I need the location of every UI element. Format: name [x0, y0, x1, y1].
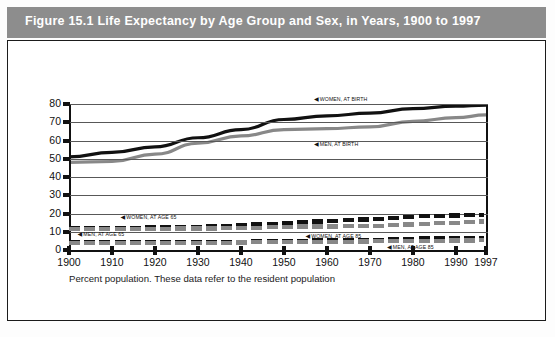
gridline	[69, 122, 488, 123]
y-axis-tick-label: 70	[39, 115, 61, 127]
y-axis-tick-mark	[63, 102, 70, 106]
x-axis-tick-mark	[454, 246, 457, 255]
x-axis-tick-label: 1900	[57, 256, 80, 268]
gridline	[69, 159, 488, 160]
dash-men-at-age-85	[343, 240, 354, 244]
gridline	[69, 232, 488, 233]
dash-men-at-age-85	[206, 241, 217, 245]
dash-men-at-age-85	[358, 239, 369, 243]
gridline	[69, 195, 488, 196]
dash-women-at-age-65	[434, 214, 445, 218]
y-axis-tick-label: 0	[39, 243, 61, 255]
figure-page: Figure 15.1 Life Expectancy by Age Group…	[0, 0, 555, 337]
y-axis-tick-mark	[63, 212, 70, 216]
y-axis-tick-label: 40	[39, 170, 61, 182]
x-axis-tick-label: 1990	[444, 256, 467, 268]
gridline	[69, 104, 488, 105]
dash-men-at-age-85	[419, 239, 430, 243]
dash-men-at-age-65	[160, 227, 171, 231]
dash-men-at-age-85	[160, 241, 171, 245]
callout-arrow-icon: ◀	[314, 96, 319, 102]
dash-women-at-age-65	[388, 216, 399, 220]
annotation-label: MEN, AT AGE 85	[393, 244, 434, 250]
dash-men-at-age-85	[236, 240, 247, 244]
x-axis-tick-mark	[325, 246, 328, 255]
dash-men-at-age-85	[221, 241, 232, 245]
dash-men-at-age-65	[282, 225, 293, 229]
dash-women-at-age-65	[312, 219, 323, 223]
dash-men-at-age-65	[373, 224, 384, 228]
dash-men-at-age-65	[464, 220, 475, 224]
gridline	[69, 177, 488, 178]
annotation-women-at-age-85: ◀WOMEN, AT AGE 85	[305, 233, 361, 239]
dash-men-at-age-85	[479, 238, 484, 242]
dash-men-at-age-85	[99, 241, 110, 245]
dash-men-at-age-85	[282, 240, 293, 244]
dash-men-at-age-65	[145, 227, 156, 231]
dash-men-at-age-65	[479, 219, 484, 223]
x-axis-tick-label: 1980	[401, 256, 424, 268]
dash-men-at-age-85	[373, 239, 384, 243]
dash-men-at-age-85	[175, 241, 186, 245]
dash-women-at-age-65	[403, 215, 414, 219]
annotation-label: WOMEN, AT BIRTH	[320, 96, 368, 102]
gridline	[69, 141, 488, 142]
dash-men-at-age-85	[388, 239, 399, 243]
annotation-men-at-age-65: ◀MEN, AT AGE 65	[78, 231, 125, 237]
annotation-label: WOMEN, AT AGE 85	[311, 233, 361, 239]
y-axis-tick-mark	[63, 120, 70, 124]
y-axis-tick-label: 30	[39, 188, 61, 200]
y-axis-tick-label: 80	[39, 97, 61, 109]
dash-men-at-age-65	[434, 221, 445, 225]
callout-arrow-icon: ◀	[78, 231, 83, 237]
chart-footnote: Percent population. These data refer to …	[69, 273, 335, 284]
dash-men-at-age-65	[327, 224, 338, 228]
dash-men-at-age-65	[358, 224, 369, 228]
dash-men-at-age-65	[236, 226, 247, 230]
dash-men-at-age-85	[145, 241, 156, 245]
x-axis-tick-mark	[484, 246, 487, 255]
annotation-men-at-birth: ◀MEN, AT BIRTH	[314, 141, 358, 147]
dash-men-at-age-85	[191, 241, 202, 245]
callout-arrow-icon: ◀	[387, 244, 392, 250]
dash-men-at-age-85	[403, 239, 414, 243]
dash-men-at-age-65	[206, 226, 217, 230]
dash-men-at-age-85	[312, 240, 323, 244]
dash-men-at-age-65	[130, 227, 141, 231]
dash-women-at-age-65	[479, 213, 484, 217]
dash-men-at-age-65	[267, 225, 278, 229]
x-axis-tick-mark	[153, 246, 156, 255]
callout-arrow-icon: ◀	[121, 214, 126, 220]
dash-men-at-age-65	[449, 221, 460, 225]
y-axis-tick-label: 50	[39, 152, 61, 164]
x-axis-tick-label: 1960	[315, 256, 338, 268]
dash-men-at-age-85	[267, 240, 278, 244]
dash-women-at-age-65	[327, 219, 338, 223]
dash-men-at-age-85	[69, 241, 80, 245]
dash-men-at-age-85	[434, 239, 445, 243]
dash-women-at-age-65	[464, 213, 475, 217]
dash-men-at-age-65	[312, 224, 323, 228]
figure-title: Figure 15.1 Life Expectancy by Age Group…	[25, 14, 481, 28]
dash-men-at-age-85	[130, 241, 141, 245]
x-axis-tick-label: 1940	[229, 256, 252, 268]
x-axis-tick-mark	[67, 246, 70, 255]
plot-area: 0102030405060708019001910192019301940195…	[69, 104, 488, 251]
callout-arrow-icon: ◀	[314, 141, 319, 147]
x-axis-tick-label: 1930	[186, 256, 209, 268]
y-axis-tick-mark	[63, 157, 70, 161]
x-axis-tick-mark	[196, 246, 199, 255]
dash-women-at-age-65	[449, 213, 460, 217]
dash-men-at-age-65	[388, 223, 399, 227]
y-axis-tick-mark	[63, 139, 70, 143]
dash-men-at-age-65	[419, 222, 430, 226]
dash-men-at-age-85	[449, 238, 460, 242]
annotation-men-at-age-85: ◀MEN, AT AGE 85	[387, 244, 434, 250]
dash-women-at-age-65	[343, 218, 354, 222]
x-axis-tick-mark	[239, 246, 242, 255]
y-axis-tick-label: 60	[39, 134, 61, 146]
x-axis-tick-label: 1997	[474, 256, 497, 268]
x-axis-tick-label: 1950	[272, 256, 295, 268]
dash-women-at-age-65	[419, 214, 430, 218]
dash-men-at-age-85	[327, 240, 338, 244]
